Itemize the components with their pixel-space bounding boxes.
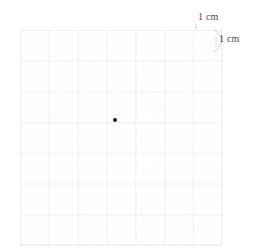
- measure-label-vertical: 1 cm: [219, 33, 240, 44]
- marked-point: [113, 118, 117, 122]
- grid-major-lines: [20, 30, 222, 245]
- figure-canvas: 1 cm 1 cm: [0, 0, 261, 251]
- measure-label-horizontal: 1 cm: [198, 11, 219, 22]
